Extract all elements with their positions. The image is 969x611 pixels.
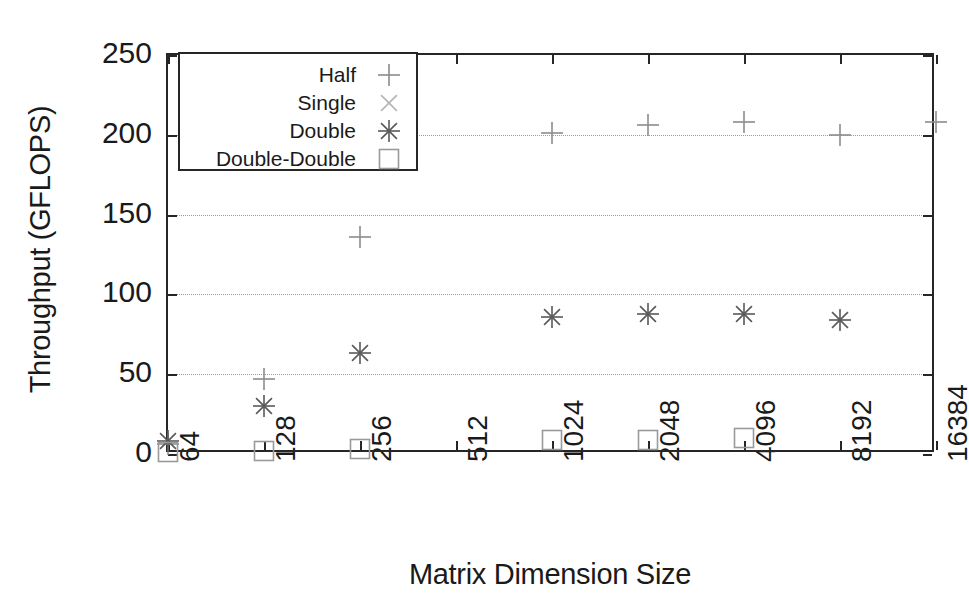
chart-canvas: Throughput (GFLOPS) Matrix Dimension Siz… [0,0,969,611]
data-point [648,314,649,315]
legend-item-label: Double [289,120,362,141]
y-tick-mark [923,55,932,57]
legend: HalfSingleDoubleDouble-Double [178,52,418,171]
data-point [552,317,553,318]
legend-item-label: Double-Double [216,148,362,169]
y-tick-mark [923,454,932,456]
x-tick-mark [552,55,554,64]
data-point [552,133,553,134]
legend-item[interactable]: Double-Double [180,144,416,173]
data-point [264,379,265,380]
x-tick-mark [936,55,938,64]
y-tick-mark [923,374,932,376]
data-point [936,122,937,123]
legend-item[interactable]: Double [180,116,416,145]
data-point [648,440,649,441]
data-point [264,406,265,407]
data-point [648,125,649,126]
legend-item-label: Half [319,64,362,85]
data-point [840,135,841,136]
gridline [168,215,932,216]
x-tick-mark [840,55,842,64]
y-tick-mark [168,374,177,376]
x-tick-mark [168,55,170,64]
y-tick-mark [923,294,932,296]
y-tick-mark [168,215,177,217]
legend-item-label: Single [298,92,362,113]
legend-marker-icon [362,60,416,89]
data-point [264,451,265,452]
data-point [744,438,745,439]
data-point [552,440,553,441]
data-point [744,122,745,123]
legend-marker-icon [362,116,416,145]
legend-item[interactable]: Single [180,88,416,117]
x-tick-mark [936,441,938,450]
y-tick-mark [923,215,932,217]
data-point [360,353,361,354]
gridline [168,374,932,375]
gridline [168,294,932,295]
x-tick-mark [456,441,458,450]
x-tick-mark [456,55,458,64]
x-tick-mark [744,55,746,64]
y-tick-mark [168,294,177,296]
legend-item[interactable]: Half [180,60,416,89]
legend-marker-icon [362,144,416,173]
x-tick-mark [840,441,842,450]
x-tick-label: 16384 [944,384,969,462]
data-point [840,320,841,321]
x-tick-mark [648,55,650,64]
y-tick-mark [168,135,177,137]
data-point [360,449,361,450]
data-point [360,237,361,238]
data-point [168,452,169,453]
data-point [744,314,745,315]
legend-marker-icon [362,88,416,117]
